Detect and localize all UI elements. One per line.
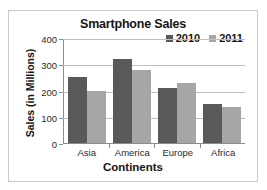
bar-asia-2011 [87, 91, 106, 144]
bar-group [109, 39, 154, 143]
chart-title: Smartphone Sales [9, 17, 257, 31]
x-axis-title: Continents [9, 161, 257, 173]
y-axis-tick-label: 400 [41, 34, 57, 45]
top-sliver-text [6, 0, 126, 8]
x-axis-labels: AsiaAmericaEuropeAfrica [64, 147, 246, 158]
y-axis-tick [59, 92, 63, 93]
bar-europe-2010 [158, 88, 177, 143]
bar-america-2011 [132, 70, 151, 144]
x-axis-label-africa: Africa [201, 147, 247, 158]
bar-group [155, 39, 200, 143]
y-axis-tick-label: 200 [41, 86, 57, 97]
bar-europe-2011 [177, 83, 196, 143]
y-axis-tick-label: 100 [41, 112, 57, 123]
y-axis-tick [59, 39, 63, 40]
x-axis-label-america: America [110, 147, 156, 158]
bar-asia-2010 [68, 77, 87, 143]
y-axis-tick [59, 65, 63, 66]
bar-group [64, 39, 109, 143]
y-axis-tick-label: 300 [41, 60, 57, 71]
y-axis-title: Sales (in Millions) [23, 41, 37, 145]
bar-group [200, 39, 245, 143]
x-axis-label-asia: Asia [64, 147, 110, 158]
x-axis-label-europe: Europe [155, 147, 201, 158]
bar-africa-2010 [203, 104, 222, 143]
bar-groups [64, 39, 245, 143]
y-axis-tick-label: 0 [52, 139, 57, 150]
y-axis-tick [59, 118, 63, 119]
y-axis-title-text: Sales (in Millions) [24, 49, 36, 138]
chart-frame: Smartphone Sales 2010 2011 Sales (in Mil… [8, 10, 258, 182]
plot-area: 0100200300400 [63, 39, 245, 144]
bar-africa-2011 [222, 107, 241, 143]
bar-america-2010 [113, 59, 132, 143]
chart-page: Smartphone Sales 2010 2011 Sales (in Mil… [0, 0, 267, 190]
y-axis-tick [59, 144, 63, 145]
